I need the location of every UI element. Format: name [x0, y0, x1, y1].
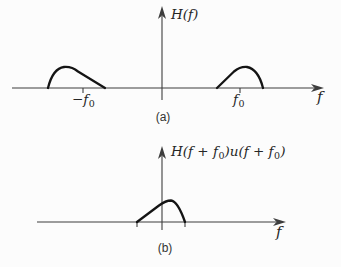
fig-b-y-axis-label-p2: )u(f + f	[224, 143, 273, 159]
fig-a-pos-f0-label-sub: 0	[239, 98, 245, 109]
figure-frequency-response: H(f) f −f0 f0 (a) H(f + f0)u(f + f0) f (…	[0, 0, 341, 267]
fig-b-y-axis-label-s1: 0	[218, 150, 224, 161]
fig-a-graphics	[12, 6, 324, 100]
figure-graphics	[0, 0, 341, 267]
fig-b-y-axis-label-p3: )	[280, 143, 285, 159]
fig-a-pos-f0-label-main: f	[233, 91, 238, 107]
fig-a-right-hump-curve	[217, 67, 263, 88]
fig-a-left-hump-curve	[48, 67, 105, 88]
fig-a-pos-f0-label: f0	[233, 92, 245, 106]
fig-a-caption: (a)	[148, 111, 178, 124]
fig-a-neg-f0-label: −f0	[72, 92, 95, 106]
fig-a-neg-f0-label-sub: 0	[89, 98, 95, 109]
fig-b-caption: (b)	[150, 242, 180, 255]
fig-b-y-axis-label-p1: H(f + f	[171, 143, 218, 159]
fig-a-neg-f0-label-main: −f	[72, 91, 88, 107]
fig-b-y-axis-label: H(f + f0)u(f + f0)	[171, 144, 285, 158]
fig-a-y-axis-label: H(f)	[171, 7, 198, 21]
fig-a-x-axis-label: f	[317, 90, 323, 106]
fig-b-hump-curve	[137, 201, 185, 223]
fig-b-x-axis-label: f	[276, 225, 282, 241]
fig-b-y-axis-label-s2: 0	[274, 150, 280, 161]
